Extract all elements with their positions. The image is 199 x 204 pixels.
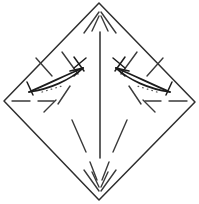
origami-fold-diagram [0, 0, 199, 204]
fold-diagram-container [0, 0, 199, 204]
